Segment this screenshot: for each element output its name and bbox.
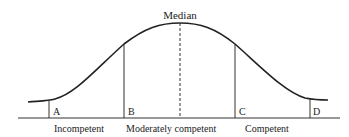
marker-label-b: B: [128, 106, 135, 117]
marker-label-d: D: [313, 106, 320, 117]
bell-curve: [28, 23, 328, 102]
region-label-competent: Competent: [245, 123, 289, 134]
marker-label-a: A: [53, 106, 61, 117]
marker-label-c: C: [239, 106, 246, 117]
region-label-incompetent: Incompetent: [54, 123, 104, 134]
region-label-moderately-competent: Moderately competent: [126, 123, 216, 134]
normal-curve-diagram: Median A B C D Incompetent Moderately co…: [0, 0, 349, 137]
median-label: Median: [163, 9, 197, 21]
